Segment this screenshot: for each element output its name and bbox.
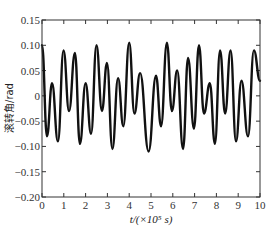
x-tick-label: 8 <box>214 199 220 211</box>
x-tick-label: 0 <box>39 199 45 211</box>
y-tick-label: 0.05 <box>21 65 41 77</box>
x-tick-label: 9 <box>235 199 241 211</box>
y-tick-label: 0.10 <box>21 39 41 51</box>
y-tick-label: −0.15 <box>15 166 41 178</box>
y-tick-label: −0.20 <box>15 191 41 203</box>
y-tick-label: −0.05 <box>15 115 41 127</box>
x-tick-label: 6 <box>170 199 176 211</box>
y-axis-title: 滚转角/rad <box>3 83 15 133</box>
x-tick-label: 5 <box>148 199 154 211</box>
x-tick-label: 7 <box>192 199 198 211</box>
y-tick-label: 0.15 <box>21 14 41 26</box>
x-tick-label: 3 <box>105 199 111 211</box>
data-line <box>42 43 260 152</box>
x-tick-label: 1 <box>61 199 67 211</box>
x-tick-label: 2 <box>83 199 89 211</box>
x-axis-title: t/(×10⁵ s) <box>130 213 173 226</box>
y-tick-label: −0.10 <box>15 140 41 152</box>
y-tick-label: 0 <box>35 90 41 102</box>
roll-angle-chart: 0.150.100.050−0.05−0.10−0.15−0.20 012345… <box>0 0 275 229</box>
x-tick-label: 10 <box>255 199 267 211</box>
x-tick-label: 4 <box>126 199 132 211</box>
